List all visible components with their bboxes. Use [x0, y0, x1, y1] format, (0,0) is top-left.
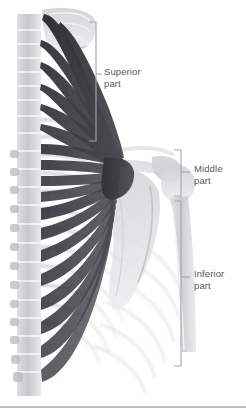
label-superior-part: Superior part — [104, 66, 141, 89]
label-middle-part: Middle part — [194, 163, 223, 186]
trapezius-anatomy-figure — [0, 0, 246, 408]
label-inferior-part: Inferior part — [194, 268, 224, 291]
